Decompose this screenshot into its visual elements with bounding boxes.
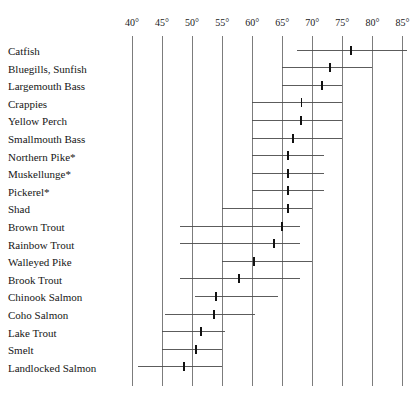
plot-area [0, 0, 418, 393]
chart-root: WATER TEMPERATURES PREFERRED BY FRESHWAT… [0, 0, 418, 393]
